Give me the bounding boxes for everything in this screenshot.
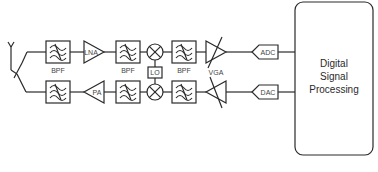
rx-bpf3-icon xyxy=(172,41,196,63)
dsp-line-3: Processing xyxy=(309,84,358,95)
vga-icon xyxy=(206,37,226,68)
rx-bpf1-icon xyxy=(46,41,70,63)
tx-bpf1-icon xyxy=(46,81,70,103)
dsp-line-2: Signal xyxy=(320,71,348,82)
adc-label: ADC xyxy=(261,49,276,56)
tx-vga-icon xyxy=(206,77,226,108)
rx-bpf2-icon xyxy=(116,41,140,63)
tx-mixer-icon xyxy=(147,84,163,100)
rx-mixer-icon xyxy=(147,44,163,60)
antenna-icon xyxy=(8,42,14,70)
tx-bpf3-icon xyxy=(172,81,196,103)
tx-bpf2-icon xyxy=(116,81,140,103)
switch-icon xyxy=(11,52,46,92)
vga-label: VGA xyxy=(209,69,224,76)
lo-label: LO xyxy=(150,69,160,76)
rx-bpf3-label: BPF xyxy=(177,67,191,74)
rx-bpf1-label: BPF xyxy=(51,67,65,74)
lna-label: LNA xyxy=(84,49,98,56)
dac-label: DAC xyxy=(261,89,276,96)
pa-label: PA xyxy=(93,89,102,96)
dsp-line-1: Digital xyxy=(320,58,348,69)
transceiver-diagram: BPF LNA BPF BPF VGA ADC LO PA xyxy=(0,0,378,172)
rx-bpf2-label: BPF xyxy=(121,67,135,74)
